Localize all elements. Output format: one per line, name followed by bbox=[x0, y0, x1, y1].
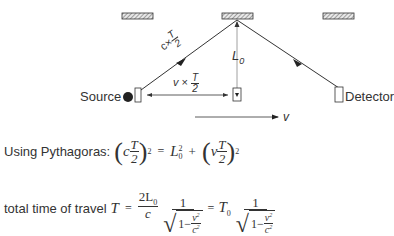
lhs-c: c bbox=[123, 143, 130, 160]
middle-box bbox=[233, 88, 241, 101]
detector-label: Detector bbox=[345, 89, 394, 104]
left-mirror bbox=[122, 13, 153, 19]
source-label: Source bbox=[80, 89, 121, 104]
source-box bbox=[135, 88, 141, 102]
c2: c2 bbox=[191, 224, 200, 235]
v2: v2 bbox=[191, 212, 200, 224]
v2-over-c2-2: v2c2 bbox=[264, 212, 273, 236]
sqrt-one-2: 1− bbox=[251, 218, 264, 230]
pythagoras-prefix: Using Pythagoras: bbox=[4, 144, 110, 159]
velocity-label: v bbox=[283, 110, 289, 124]
rhs-fraction: T2 bbox=[217, 138, 226, 165]
c2-2: c2 bbox=[264, 224, 273, 235]
v2-over-c2: v2c2 bbox=[191, 212, 200, 236]
two-l0-over-c: 2L0 c bbox=[138, 190, 158, 221]
sqrt-v-exp: 2 bbox=[197, 212, 200, 218]
total-time-equation: total time of travel T = 2L0 c 1 √ 1− v2… bbox=[4, 182, 276, 236]
two-l0: 2L bbox=[139, 189, 153, 204]
radical-icon: √ bbox=[163, 212, 176, 236]
pythagoras-lhs: ( c T2 )2 bbox=[114, 138, 151, 165]
rhs-den: 2 bbox=[218, 152, 227, 165]
center-mirror bbox=[222, 13, 253, 19]
radicand-1: 1− v2c2 bbox=[176, 210, 202, 236]
t0-symbol: T0 bbox=[218, 199, 230, 218]
rhs-num: T bbox=[217, 138, 226, 152]
total-time-prefix: total time of travel bbox=[4, 201, 107, 216]
base-den: 2 bbox=[191, 84, 199, 94]
gamma-one-2: 1 bbox=[244, 196, 267, 210]
sqrt-2: √ 1− v2c2 bbox=[235, 210, 276, 236]
height-label: L0 bbox=[232, 48, 244, 66]
source-dot bbox=[123, 92, 133, 102]
path-arrow-up-icon bbox=[176, 58, 186, 66]
sqrt-1: √ 1− v2c2 bbox=[162, 210, 203, 236]
base-fraction: T2 bbox=[191, 73, 199, 94]
l0-squared: L20 bbox=[170, 143, 182, 160]
equals-sign: = bbox=[157, 144, 164, 159]
velocity-arrow bbox=[195, 115, 279, 120]
detector-box bbox=[335, 87, 343, 102]
t0-sub: 0 bbox=[227, 209, 231, 218]
t-symbol: T bbox=[111, 200, 119, 217]
lhs-num: T bbox=[130, 138, 139, 152]
close-paren-2: ) bbox=[227, 139, 236, 165]
pythagoras-rhs: ( v T2 )2 bbox=[202, 138, 239, 165]
sqrt-c-exp: 2 bbox=[197, 224, 200, 230]
equals-sign-2: = bbox=[208, 201, 215, 216]
gamma-factor-1: 1 √ 1− v2c2 bbox=[162, 196, 203, 236]
light-clock-diagram bbox=[0, 0, 387, 122]
plus-sign: + bbox=[189, 144, 196, 160]
sqrt-one: 1− bbox=[178, 218, 191, 230]
v2-2: v2 bbox=[264, 212, 273, 224]
open-paren-2: ( bbox=[202, 139, 211, 165]
radicand-2: 1− v2c2 bbox=[249, 210, 275, 236]
light-path-down bbox=[237, 20, 339, 88]
base-v: v bbox=[173, 76, 179, 88]
height-subscript: 0 bbox=[239, 56, 244, 66]
gamma-factor-2: 1 √ 1− v2c2 bbox=[235, 196, 276, 236]
pythagoras-equation: Using Pythagoras: ( c T2 )2 = L20 + ( v … bbox=[4, 138, 239, 165]
radical-icon-2: √ bbox=[236, 212, 249, 236]
two-l0-sub: 0 bbox=[153, 197, 157, 206]
lhs-den: 2 bbox=[130, 152, 139, 165]
base-label: v × T2 bbox=[173, 73, 199, 94]
l0-sub: 0 bbox=[179, 153, 183, 160]
l0-symbol: L bbox=[170, 143, 178, 159]
equals-sign-1: = bbox=[125, 201, 132, 216]
two-l0-num: 2L0 bbox=[138, 190, 158, 208]
lhs-fraction: T2 bbox=[130, 138, 139, 165]
lhs-exp: 2 bbox=[147, 147, 151, 156]
t0: T bbox=[218, 199, 226, 215]
sqrt-c-exp-2: 2 bbox=[269, 224, 272, 230]
open-paren: ( bbox=[114, 139, 123, 165]
sqrt-v-exp-2: 2 bbox=[269, 212, 272, 218]
rhs-v: v bbox=[211, 143, 218, 160]
den-c: c bbox=[144, 207, 152, 220]
gamma-one: 1 bbox=[172, 196, 195, 210]
rhs-exp: 2 bbox=[235, 147, 239, 156]
base-times: × bbox=[182, 76, 188, 88]
close-paren: ) bbox=[139, 139, 148, 165]
right-mirror bbox=[323, 13, 354, 19]
